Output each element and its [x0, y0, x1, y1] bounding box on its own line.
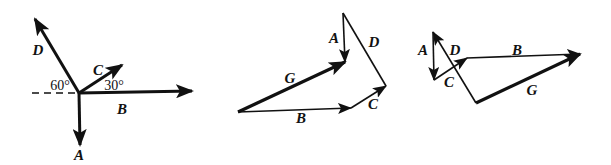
label-c: C: [444, 75, 454, 90]
vector-b-arrow: [467, 54, 580, 58]
label-d: D: [369, 35, 380, 50]
label-a: A: [329, 31, 339, 46]
label-g: G: [527, 83, 538, 98]
label-a: A: [418, 43, 428, 58]
vector-diagrams-canvas: [0, 0, 611, 165]
label-angle-60: 60°: [50, 79, 70, 93]
diagram-2: [238, 13, 386, 112]
label-d: D: [450, 43, 461, 58]
label-b: B: [117, 102, 127, 117]
vector-a-arrow: [79, 93, 80, 145]
label-b: B: [296, 111, 306, 126]
label-a: A: [74, 148, 84, 163]
label-d: D: [33, 43, 44, 58]
label-g: G: [285, 71, 296, 86]
label-c: C: [368, 97, 378, 112]
vector-a-arrow: [433, 32, 434, 80]
vector-b-arrow: [238, 108, 351, 112]
label-c: C: [93, 63, 103, 78]
label-b: B: [512, 43, 522, 58]
vector-a-arrow: [343, 13, 345, 62]
vector-d-line: [343, 13, 386, 86]
label-angle-30: 30°: [104, 79, 124, 93]
vector-b-arrow: [79, 91, 192, 93]
